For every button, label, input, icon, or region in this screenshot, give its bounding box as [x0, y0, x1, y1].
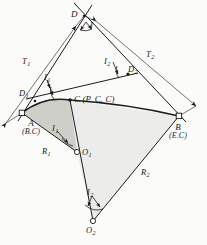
label-radius-r1: R1: [42, 147, 51, 157]
label-point-a-note: (B.C): [14, 128, 48, 136]
label-center-o2: O2: [86, 226, 96, 236]
label-tangent-t1: T1: [22, 57, 30, 67]
label-angle-i2-lower: I2: [87, 188, 93, 198]
marker-A: [19, 110, 24, 115]
marker-O1: [74, 149, 79, 154]
label-sub-tangent-d2: D2: [128, 65, 138, 75]
label-tangent-t2: T2: [146, 50, 154, 60]
marker-D1: [34, 100, 37, 103]
label-point-a-group: A (B.C): [14, 119, 48, 136]
label-point-b-group: B (E.C): [161, 123, 195, 140]
label-radius-r2: R2: [141, 168, 150, 178]
label-vertex-d: D: [71, 10, 78, 19]
label-angle-i1-lower: I1: [52, 124, 58, 134]
compound-curve-figure: D I T1 T2 D1 D2 I1 I2 I1 I2 C (P. C. C) …: [0, 0, 207, 245]
angle-arc-I2-upper: [116, 66, 119, 78]
label-point-b-note: (E.C): [161, 132, 195, 140]
label-point-c: C (P. C. C): [74, 95, 115, 104]
label-angle-i2-upper: I2: [104, 57, 110, 67]
marker-C: [68, 98, 72, 102]
label-angle-i1-upper: I1: [44, 73, 50, 83]
label-center-o1: O1: [82, 148, 92, 158]
marker-B: [176, 113, 181, 118]
marker-O2: [90, 218, 95, 223]
angle-leader-I-left: [81, 22, 87, 30]
label-intersection-angle: I: [90, 21, 93, 30]
angle-leader-I2-upper: [113, 62, 118, 74]
marker-D: [83, 15, 86, 18]
shaded-regions: [22, 99, 179, 221]
label-sub-tangent-d1: D1: [19, 89, 29, 99]
